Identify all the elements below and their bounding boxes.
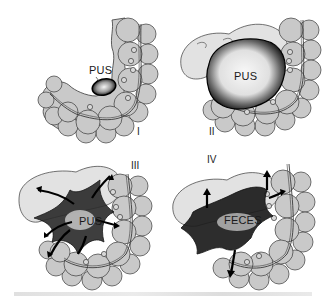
stage-numeral: III bbox=[131, 160, 139, 171]
cropped-caption bbox=[14, 292, 312, 296]
panel-stage-3: PUS III bbox=[0, 150, 163, 295]
panel-stage-2: PUS II bbox=[163, 0, 326, 145]
pus-label: PUS bbox=[89, 64, 112, 76]
pus-label: PUS bbox=[234, 70, 257, 82]
pus-label: PUS bbox=[79, 215, 102, 227]
panel-stage-4: FECES IV bbox=[163, 150, 326, 295]
stage-numeral: IV bbox=[207, 154, 216, 165]
colon-illustration bbox=[0, 0, 163, 145]
stage-numeral: II bbox=[209, 126, 215, 137]
stage-numeral: I bbox=[137, 126, 140, 137]
panel-stage-1: PUS I bbox=[0, 0, 163, 145]
feces-label: FECES bbox=[224, 214, 262, 226]
